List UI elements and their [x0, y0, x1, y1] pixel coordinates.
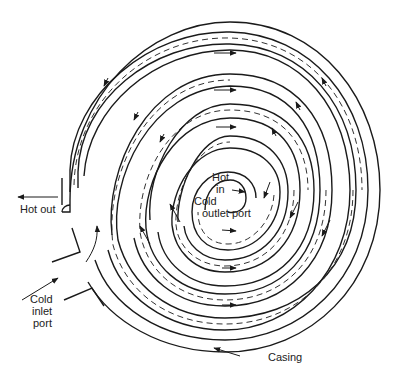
cold-inlet-label-line1: Cold	[30, 293, 53, 305]
cold-outlet-label-line1: Cold	[194, 195, 217, 207]
cold-flow-arrow-icon	[296, 102, 300, 110]
casing-label: Casing	[268, 351, 302, 363]
spiral-heat-exchanger-diagram: Hot out Hot in Cold outlet port Cold inl…	[0, 0, 394, 372]
cold-inlet-label-line2: inlet	[32, 305, 52, 317]
cold-flow-arrow-icon	[86, 226, 97, 262]
cold-flow-arrow-icon	[134, 112, 138, 120]
hot-flow-arrow-icon	[232, 190, 245, 192]
hot-in-label-line2: in	[216, 183, 225, 195]
cold-outlet-label-line2: outlet port	[202, 207, 251, 219]
cold-flow-arrow-icon	[264, 182, 270, 198]
hot-out-label: Hot out	[20, 203, 55, 215]
cold-flow-arrow-icon	[160, 134, 164, 142]
hot-out-port	[62, 178, 70, 212]
hot-in-label-line1: Hot	[212, 171, 229, 183]
cold-flow-arrow-icon	[322, 78, 326, 86]
hot-flow-arrow-icon	[222, 230, 236, 231]
cold-inlet-label-line3: port	[33, 317, 52, 329]
cold-flow-arrow-icon	[140, 226, 150, 244]
